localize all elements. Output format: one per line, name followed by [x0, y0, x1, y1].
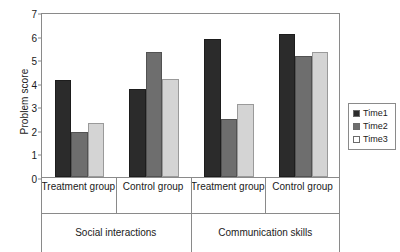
- bar: [129, 89, 146, 177]
- x-axis-supergroup-label: Communication skills: [191, 214, 341, 252]
- x-axis-separator: [339, 178, 340, 252]
- legend-swatch-icon: [353, 123, 360, 130]
- bar: [162, 79, 179, 177]
- x-axis-supergroup-label: Social interactions: [41, 214, 191, 252]
- bar: [221, 119, 238, 177]
- legend-item: Time3: [353, 133, 392, 146]
- legend: Time1Time2Time3: [348, 103, 396, 150]
- x-axis-separator: [265, 178, 266, 214]
- legend-label: Time3: [363, 133, 388, 146]
- x-axis-group-label: Treatment group: [191, 178, 266, 213]
- bar: [295, 56, 312, 177]
- legend-item: Time1: [353, 107, 392, 120]
- bar: [88, 123, 105, 177]
- legend-swatch-icon: [353, 110, 360, 117]
- plot-area: 01234567: [41, 13, 340, 178]
- bar: [204, 39, 221, 177]
- x-axis-label-band: Treatment groupControl groupTreatment gr…: [41, 178, 340, 252]
- legend-label: Time2: [363, 120, 388, 133]
- legend-item: Time2: [353, 120, 392, 133]
- legend-label: Time1: [363, 107, 388, 120]
- x-axis-group-label: Control group: [116, 178, 191, 213]
- y-axis-title: Problem score: [19, 27, 30, 177]
- bars-layer: [42, 14, 339, 177]
- bar: [279, 34, 296, 177]
- x-axis-group-label: Treatment group: [41, 178, 116, 213]
- bar: [312, 52, 329, 177]
- x-axis-group-label: Control group: [265, 178, 340, 213]
- bar: [237, 104, 254, 177]
- bar: [55, 80, 72, 177]
- x-axis-separator: [191, 178, 192, 252]
- legend-swatch-icon: [353, 136, 360, 143]
- x-axis-separator: [116, 178, 117, 214]
- bar-chart: Problem score 01234567 Treatment groupCo…: [0, 0, 400, 252]
- bar: [71, 132, 88, 177]
- bar: [146, 52, 163, 177]
- x-axis-separator: [41, 178, 42, 252]
